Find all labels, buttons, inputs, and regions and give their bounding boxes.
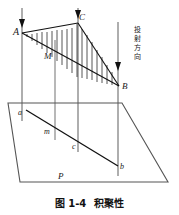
label-point-b: b (120, 163, 124, 171)
arrowhead-B-icon (115, 62, 121, 71)
label-point-a: a (18, 109, 22, 117)
segment-AB (22, 33, 119, 86)
projection-rays (22, 8, 118, 176)
projection-direction-text: 投 射 方 向 (131, 26, 143, 62)
label-plane-P: P (58, 172, 64, 181)
segment-AC (22, 23, 78, 33)
projected-line-ab (26, 110, 118, 166)
segment-ab (26, 110, 118, 166)
label-point-M: M (44, 52, 52, 61)
projection-diagram (0, 0, 179, 215)
segment-CB (78, 23, 119, 86)
label-point-c: c (72, 143, 76, 151)
caption-title: 积聚性 (94, 198, 124, 209)
ray-arrowheads (19, 10, 121, 71)
label-point-m: m (44, 128, 50, 136)
projection-char-1: 投 (131, 26, 143, 35)
plane-outline (8, 103, 168, 182)
caption-number: 图 1-4 (55, 198, 87, 209)
figure-caption: 图 1-4积聚性 (0, 195, 179, 210)
label-point-A: A (13, 27, 19, 37)
projection-char-4: 向 (131, 53, 143, 62)
label-point-B: B (122, 82, 128, 91)
label-point-C: C (79, 13, 85, 22)
triangle-ACB (22, 23, 119, 86)
projection-char-3: 方 (131, 44, 143, 53)
projection-char-2: 射 (131, 35, 143, 44)
arrowhead-A-icon (19, 19, 25, 28)
plane-P (8, 103, 168, 182)
hatch-fill (27, 24, 112, 85)
